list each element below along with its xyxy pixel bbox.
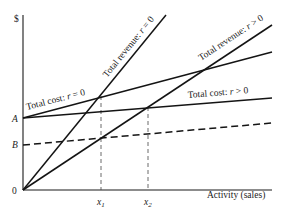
origin-label: 0 (12, 186, 17, 196)
total-cost-r0-label: Total cost: r = 0 (25, 87, 86, 112)
x2-label: x2 (143, 197, 152, 209)
intercept-a-label: A (11, 114, 18, 124)
total-cost-rpos-label: Total cost: r > 0 (187, 85, 248, 100)
x1-label: x1 (96, 197, 105, 209)
total-revenue-r0-label: Total revenue: r = 0 (101, 14, 156, 79)
intercept-b-label: B (12, 140, 18, 150)
y-axis-label: $ (14, 14, 19, 24)
fixed-cost-b-dashed-line (23, 123, 272, 145)
x-axis-label: Activity (sales) (207, 190, 265, 201)
break-even-diagram: $ Activity (sales) 0 A B x1 x2 Total rev… (0, 0, 287, 215)
total-revenue-rpos-label: Total revenue: r > 0 (197, 13, 266, 63)
